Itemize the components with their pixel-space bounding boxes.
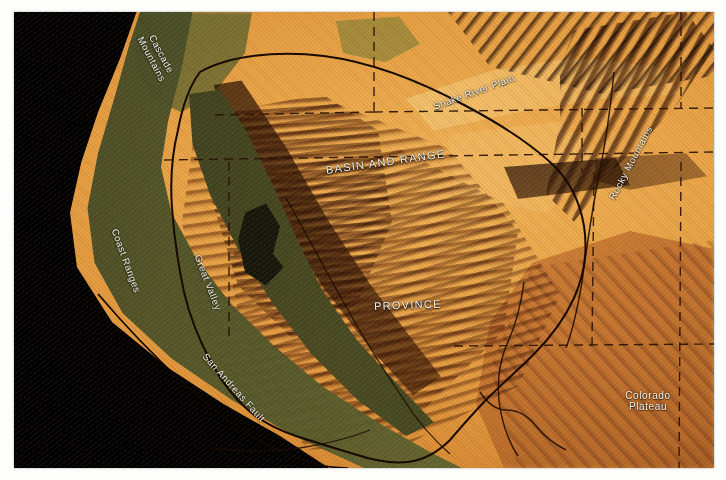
state-line-horizontal-lower xyxy=(454,344,714,346)
state-line-horizontal-nw xyxy=(214,112,374,115)
fault-line-sierra-front xyxy=(286,198,450,454)
state-boundary-lines xyxy=(164,12,714,468)
relief-map-figure: Cascade Mountains Snake River Plain Rock… xyxy=(0,0,726,480)
map-linework xyxy=(14,12,714,468)
state-line-az-nm xyxy=(498,282,524,456)
state-line-vertical-east xyxy=(679,162,681,468)
state-boundary-lines-solid xyxy=(480,72,614,456)
relief-image-plate: Cascade Mountains Snake River Plain Rock… xyxy=(14,12,714,468)
state-line-vertical-co-west xyxy=(592,172,594,346)
state-line-south-az xyxy=(480,392,566,450)
minor-structure-lines xyxy=(210,198,450,454)
state-line-horizontal-mid xyxy=(164,152,714,160)
state-line-horizontal-upper xyxy=(374,108,714,112)
state-line-co-front xyxy=(566,72,614,348)
